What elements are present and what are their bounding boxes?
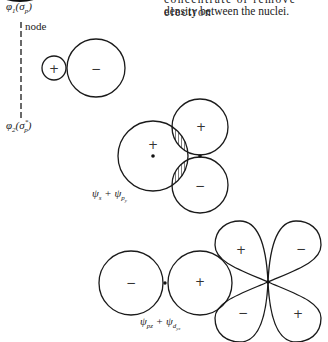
py-top-plus-sign: + xyxy=(196,120,206,134)
d-lower-right-plus-sign: + xyxy=(293,307,303,321)
figure-s-plus-py: + + − xyxy=(118,99,228,213)
figure-pz-plus-dyz: − + + − − + xyxy=(99,221,321,342)
p-nucleus-dot xyxy=(198,154,202,158)
orbital-diagram: + − + + − xyxy=(0,0,328,342)
d-nucleus-dot xyxy=(266,280,269,283)
s-nucleus-dot xyxy=(151,154,155,158)
s-plus-sign: + xyxy=(148,138,158,152)
pz-right-plus-sign: + xyxy=(195,275,205,289)
figure-sigma-p-antibonding: + − xyxy=(42,39,125,97)
d-lower-left-minus-sign: − xyxy=(238,306,248,320)
cropped-shape xyxy=(2,0,38,2)
d-lobe-upper-right xyxy=(268,221,321,282)
pz-nucleus-dot xyxy=(163,281,166,284)
pz-left-minus-sign: − xyxy=(126,276,136,290)
plus-sign: + xyxy=(49,62,59,76)
d-upper-left-plus-sign: + xyxy=(236,243,246,257)
diagram-page: concentrate or remove electron density b… xyxy=(0,0,328,342)
d-upper-right-minus-sign: − xyxy=(296,242,306,256)
py-bottom-minus-sign: − xyxy=(195,179,205,193)
minus-sign: − xyxy=(91,62,101,76)
